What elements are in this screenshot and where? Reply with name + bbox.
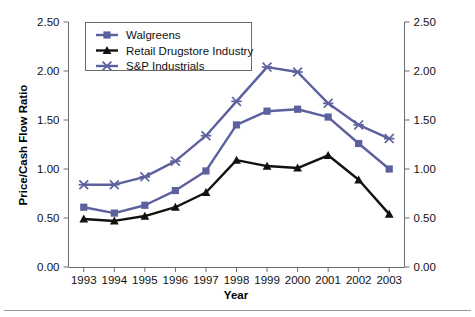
legend-swatch-marker — [103, 31, 110, 38]
chart-legend: WalgreensRetail Drugstore IndustryS&P In… — [86, 23, 254, 73]
y-tick-label-right: 0.50 — [414, 212, 436, 224]
x-tick-label: 1993 — [71, 274, 97, 286]
x-tick-label: 1997 — [193, 274, 219, 286]
data-point — [141, 202, 148, 209]
x-tick-label: 1996 — [163, 274, 189, 286]
data-point — [263, 108, 270, 115]
data-point — [355, 140, 362, 147]
x-tick-label: 1995 — [132, 274, 158, 286]
x-tick-label: 2003 — [376, 274, 402, 286]
x-tick-label: 1994 — [102, 274, 128, 286]
y-tick-label-right: 2.00 — [414, 65, 436, 77]
y-tick-label: 0.50 — [37, 212, 59, 224]
y-tick-label: 0.00 — [37, 261, 59, 273]
x-axis-title: Year — [224, 289, 249, 301]
data-point — [325, 113, 332, 120]
y-axis-title: Price/Cash Flow Ratio — [17, 85, 29, 206]
y-tick-label: 1.50 — [37, 114, 59, 126]
y-tick-label-right: 1.00 — [414, 163, 436, 175]
y-tick-label-right: 1.50 — [414, 114, 436, 126]
data-point — [294, 106, 301, 113]
data-point — [386, 165, 393, 172]
data-point — [202, 167, 209, 174]
price-cash-flow-ratio-line-chart: 0.000.501.001.502.002.50 0.000.501.001.5… — [0, 0, 475, 317]
legend-label: Walgreens — [126, 29, 181, 41]
data-point — [233, 121, 240, 128]
y-tick-label: 1.00 — [37, 163, 59, 175]
x-tick-label: 2001 — [315, 274, 341, 286]
data-point — [111, 210, 118, 217]
y-tick-label: 2.00 — [37, 65, 59, 77]
y-tick-label-right: 2.50 — [414, 16, 436, 28]
legend-label: S&P Industrials — [126, 60, 205, 72]
chart-figure: 0.000.501.001.502.002.50 0.000.501.001.5… — [0, 0, 475, 317]
y-tick-label: 2.50 — [37, 16, 59, 28]
legend-label: Retail Drugstore Industry — [126, 45, 253, 57]
x-tick-label: 2000 — [285, 274, 311, 286]
x-tick-label: 1999 — [254, 274, 280, 286]
data-point — [80, 204, 87, 211]
x-tick-label: 1998 — [224, 274, 250, 286]
x-tick-label: 2002 — [346, 274, 372, 286]
y-tick-label-right: 0.00 — [414, 261, 436, 273]
data-point — [172, 187, 179, 194]
